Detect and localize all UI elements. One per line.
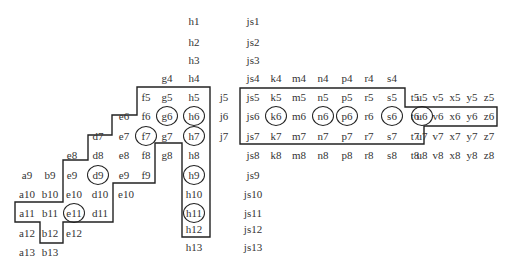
cell-label: b12	[42, 228, 59, 239]
cell-label: z7	[484, 131, 494, 142]
circle-marker-h6	[183, 106, 205, 126]
cell-label: j5	[220, 92, 229, 103]
cell-label: e7	[119, 131, 129, 142]
cell-label: x5	[450, 92, 461, 103]
cell-label: h4	[189, 73, 200, 84]
cell-label: f6	[141, 111, 150, 122]
cell-label: a11	[19, 208, 34, 219]
cell-label: s7	[387, 131, 397, 142]
cell-label: r5	[364, 92, 373, 103]
cell-label: f8	[141, 150, 150, 161]
cell-label: m4	[292, 73, 306, 84]
circle-marker-f7	[135, 126, 157, 146]
cell-label: k7	[271, 131, 282, 142]
cell-label: r8	[364, 150, 373, 161]
cell-label: p8	[342, 150, 353, 161]
circle-marker-k6	[265, 106, 287, 126]
cell-label: d8	[93, 150, 104, 161]
cell-label: x6	[450, 111, 461, 122]
cell-label: h3	[189, 55, 200, 66]
cell-label: g5	[162, 92, 173, 103]
circle-marker-u6	[411, 106, 433, 126]
cell-label: r6	[364, 111, 373, 122]
cell-label: b10	[42, 189, 59, 200]
cell-label: b11	[42, 208, 58, 219]
cell-label: v7	[433, 131, 444, 142]
cell-label: f5	[141, 92, 150, 103]
cell-label: y5	[467, 92, 478, 103]
cell-label: h1	[189, 16, 200, 27]
circle-marker-g6	[156, 106, 178, 126]
cell-label: k4	[271, 73, 282, 84]
cell-label: z6	[484, 111, 494, 122]
cell-label: js12	[244, 224, 262, 235]
cell-label: e10	[118, 189, 134, 200]
cell-label: m8	[292, 150, 306, 161]
cell-label: p4	[342, 73, 353, 84]
cell-label: js7	[247, 131, 260, 142]
circle-marker-h9	[183, 165, 205, 185]
cell-label: js11	[244, 208, 262, 219]
cell-label: b13	[42, 247, 59, 258]
circle-marker-s6	[381, 106, 403, 126]
cell-label: n8	[318, 150, 329, 161]
cell-label: v5	[433, 92, 444, 103]
cell-label: h5	[189, 92, 200, 103]
cell-label: n5	[318, 92, 329, 103]
cell-label: m7	[292, 131, 306, 142]
cell-label: y6	[467, 111, 478, 122]
cell-label: u5	[417, 92, 428, 103]
cell-label: x8	[450, 150, 461, 161]
cell-label: u7	[417, 131, 428, 142]
cell-label: h10	[186, 189, 203, 200]
cell-label: r4	[364, 73, 373, 84]
circle-marker-p6	[336, 106, 358, 126]
cell-label: js2	[247, 37, 260, 48]
cell-label: js8	[247, 150, 260, 161]
cell-label: h13	[186, 242, 203, 253]
circle-marker-e11	[63, 203, 85, 223]
cell-label: js1	[247, 16, 260, 27]
cell-label: m6	[292, 111, 306, 122]
grid-diagram: h1js1h2js2h3js3g4h4js4k4m4n4p4r4s4f5g5h5…	[0, 0, 510, 269]
cell-label: s4	[387, 73, 397, 84]
cell-label: e9	[119, 170, 129, 181]
cell-label: h2	[189, 37, 200, 48]
cell-label: z8	[484, 150, 494, 161]
circle-marker-h7	[183, 126, 205, 146]
cell-label: e6	[119, 111, 129, 122]
cell-label: g4	[162, 73, 173, 84]
cell-label: y7	[467, 131, 478, 142]
circle-marker-h11	[183, 203, 205, 223]
cell-label: e8	[67, 150, 77, 161]
cell-label: n7	[318, 131, 329, 142]
circle-marker-d9	[87, 165, 109, 185]
cell-label: g7	[162, 131, 173, 142]
cell-label: r7	[364, 131, 373, 142]
cell-label: e8	[119, 150, 129, 161]
cell-label: n4	[318, 73, 329, 84]
cell-label: js4	[247, 73, 260, 84]
cell-label: a12	[19, 228, 35, 239]
cell-label: js9	[247, 170, 260, 181]
cell-label: z5	[484, 92, 494, 103]
cell-label: js5	[247, 92, 260, 103]
cell-label: v8	[433, 150, 444, 161]
cell-label: s5	[387, 92, 397, 103]
cell-label: m5	[292, 92, 306, 103]
cell-label: js13	[244, 242, 262, 253]
cell-label: j7	[220, 131, 229, 142]
cell-label: p5	[342, 92, 353, 103]
cell-label: p7	[342, 131, 353, 142]
cell-label: s8	[387, 150, 397, 161]
cell-label: a9	[22, 170, 32, 181]
cell-label: h8	[189, 150, 200, 161]
cell-label: k5	[271, 92, 282, 103]
cell-label: d11	[92, 208, 108, 219]
cell-label: js10	[244, 189, 262, 200]
cell-label: k8	[271, 150, 282, 161]
cell-label: a10	[19, 189, 35, 200]
cell-label: e9	[67, 170, 77, 181]
cell-label: js6	[247, 111, 260, 122]
cell-label: b9	[45, 170, 56, 181]
